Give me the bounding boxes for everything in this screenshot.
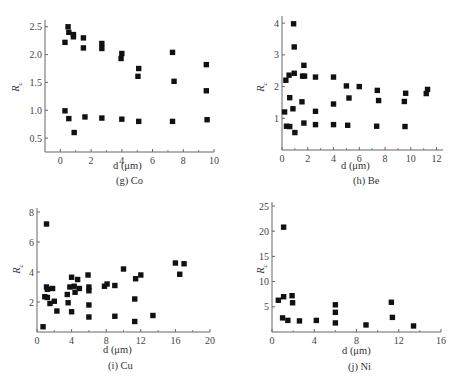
- y-tick-label: 10: [259, 276, 269, 287]
- data-point: [177, 272, 182, 277]
- data-point: [331, 74, 336, 79]
- x-axis-label-ni: d (μm): [342, 345, 371, 356]
- y-tick-label: 0.5: [30, 133, 43, 144]
- data-point: [170, 119, 175, 124]
- y-tick-label: 8: [29, 207, 34, 218]
- data-point: [171, 79, 176, 84]
- data-point: [424, 91, 429, 96]
- y-tick-label: 20: [259, 226, 269, 237]
- data-point: [285, 318, 290, 323]
- data-point: [82, 114, 87, 119]
- data-point: [302, 73, 307, 78]
- data-point: [333, 302, 338, 307]
- data-point: [402, 124, 407, 129]
- x-tick-label: 10: [406, 153, 416, 164]
- data-point: [331, 101, 336, 106]
- y-tick-label: 5: [264, 301, 269, 312]
- y-axis-label-co: Rc: [10, 82, 24, 92]
- x-axis-label-co: d (μm): [113, 160, 142, 171]
- data-point: [389, 300, 394, 305]
- data-point: [281, 294, 286, 299]
- data-point: [71, 130, 76, 135]
- x-tick-label: 4: [69, 335, 74, 346]
- data-point: [133, 276, 138, 281]
- data-point: [281, 224, 286, 229]
- data-point: [62, 40, 67, 45]
- data-point: [292, 44, 297, 49]
- chart-panel-be: 0246810121234 Rc d (μm) (h) Be: [231, 0, 463, 192]
- data-point: [86, 314, 91, 319]
- data-point: [71, 34, 76, 39]
- data-point: [290, 106, 295, 111]
- x-tick-label: 0: [270, 335, 275, 346]
- data-point: [276, 298, 281, 303]
- x-tick-label: 16: [436, 335, 446, 346]
- data-point: [112, 283, 117, 288]
- data-point: [297, 318, 302, 323]
- data-point: [313, 109, 318, 114]
- chart-plot-cu: 0481216202468: [0, 192, 231, 384]
- data-point: [402, 99, 407, 104]
- y-axis-label-cu: Rc: [11, 264, 25, 274]
- x-axis-label-cu: d (μm): [103, 344, 132, 355]
- data-point: [86, 302, 91, 307]
- x-tick-label: 20: [205, 335, 215, 346]
- data-point: [333, 310, 338, 315]
- data-point: [119, 51, 124, 56]
- data-point: [65, 292, 70, 297]
- y-tick-label: 2.5: [30, 21, 43, 32]
- data-point: [138, 272, 143, 277]
- data-point: [299, 99, 304, 104]
- data-point: [346, 95, 351, 100]
- data-point: [282, 109, 287, 114]
- data-point: [99, 46, 104, 51]
- data-point: [69, 275, 74, 280]
- data-point: [181, 261, 186, 266]
- x-tick-label: 16: [170, 335, 180, 346]
- data-point: [291, 21, 296, 26]
- data-point: [62, 108, 67, 113]
- y-tick-label: 4: [274, 18, 279, 29]
- data-point: [363, 322, 368, 327]
- data-point: [173, 260, 178, 265]
- x-tick-label: 0: [35, 335, 40, 346]
- x-tick-label: 8: [383, 153, 388, 164]
- data-point: [104, 281, 109, 286]
- y-axis-label-be: Rc: [255, 82, 269, 92]
- data-point: [313, 122, 318, 127]
- data-point: [99, 115, 104, 120]
- data-point: [86, 288, 91, 293]
- x-tick-label: 0: [280, 153, 285, 164]
- data-point: [345, 123, 350, 128]
- data-point: [331, 122, 336, 127]
- y-tick-label: 1.5: [30, 77, 43, 88]
- data-point: [313, 74, 318, 79]
- y-axis-label-ni: Rc: [255, 264, 269, 274]
- data-point: [77, 286, 82, 291]
- y-tick-label: 4: [29, 267, 34, 278]
- data-point: [54, 308, 59, 313]
- data-point: [121, 266, 126, 271]
- chart-panel-co: 02468100.51.01.52.02.5 Rc d (μm) (g) Co: [0, 0, 231, 192]
- data-point: [289, 293, 294, 298]
- y-tick-label: 15: [259, 251, 269, 262]
- data-point: [99, 41, 104, 46]
- data-point: [280, 315, 285, 320]
- x-tick-label: 8: [181, 155, 186, 166]
- data-point: [65, 300, 70, 305]
- x-axis-label-be: d (μm): [341, 160, 370, 171]
- caption-ni: (j) Ni: [348, 361, 371, 372]
- data-point: [287, 95, 292, 100]
- x-tick-label: 2: [89, 155, 94, 166]
- data-point: [150, 313, 155, 318]
- caption-cu: (i) Cu: [108, 360, 133, 371]
- data-point: [292, 71, 297, 76]
- data-point: [132, 319, 137, 324]
- y-tick-label: 1.0: [30, 105, 43, 116]
- data-point: [301, 120, 306, 125]
- y-tick-label: 1: [274, 113, 279, 124]
- data-point: [75, 277, 80, 282]
- data-point: [287, 124, 292, 129]
- x-tick-label: 4: [331, 153, 336, 164]
- data-point: [119, 116, 124, 121]
